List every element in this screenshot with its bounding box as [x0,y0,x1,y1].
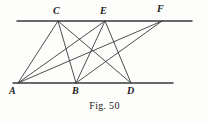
vertex-label-f: F [157,4,164,14]
vertex-label-a: A [9,86,16,96]
vertex-label-c: C [53,6,60,16]
segment-C-D [58,21,131,83]
vertex-label-e: E [100,6,107,16]
segment-E-B [76,21,105,83]
segment-A-F [18,21,162,83]
figure-caption: Fig. 50 [0,100,209,111]
vertex-label-b: B [72,86,79,96]
vertex-label-d: D [127,86,134,96]
segment-C-B [58,21,76,83]
figure-container: CEFABD Fig. 50 [0,0,209,122]
segment-E-D [105,21,131,83]
segment-A-C [18,21,58,83]
connecting-segments-group [18,21,162,83]
segment-A-E [18,21,105,83]
